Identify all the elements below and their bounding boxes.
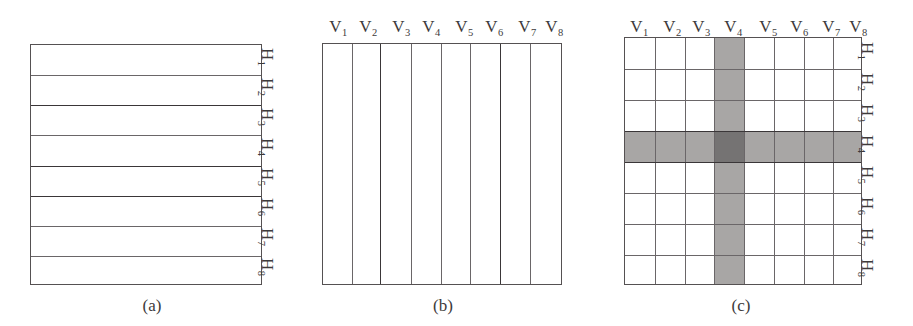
- panel-a-row-label-h6: H6: [259, 198, 276, 216]
- panel-c-col-label-v4: V4: [724, 18, 742, 35]
- panel-b-col-label-v4: V4: [422, 18, 440, 35]
- panel-a-row-label-h2: H2: [259, 78, 276, 96]
- panel-c-row-label-h1: H1: [859, 42, 876, 60]
- panel-b-col-divider-1: [352, 44, 353, 284]
- panel-a-row-divider-7: [31, 256, 261, 257]
- panel-b-col-label-v8: V8: [545, 18, 563, 35]
- panel-c-row-divider-3: [625, 131, 861, 132]
- panel-c-col-label-v8: V8: [849, 18, 867, 35]
- panel-c-row-label-h8: H8: [859, 259, 876, 277]
- panel-c-col-divider-6: [804, 38, 805, 284]
- panel-c-row-label-h3: H3: [859, 104, 876, 122]
- panel-c-row-label-h6: H6: [859, 197, 876, 215]
- panel-a-row-label-h5: H5: [259, 168, 276, 186]
- panel-b-caption: (b): [433, 297, 453, 314]
- panel-c-col-divider-5: [774, 38, 775, 284]
- panel-b-col-divider-3: [411, 44, 412, 284]
- panel-c-row-label-h2: H2: [859, 73, 876, 91]
- panel-b-col-label-v7: V7: [518, 18, 536, 35]
- panel-c-row-label-h5: H5: [859, 166, 876, 184]
- panel-a-row-divider-4: [31, 166, 261, 167]
- panel-b-col-divider-7: [530, 44, 531, 284]
- panel-b-col-label-v3: V3: [392, 18, 410, 35]
- panel-c-row-label-h7: H7: [859, 228, 876, 246]
- panel-b-col-divider-2: [380, 44, 381, 284]
- panel-a-row-divider-6: [31, 226, 261, 227]
- panel-c-col-divider-2: [685, 38, 686, 284]
- panel-c-row-divider-1: [625, 69, 861, 70]
- panel-c-row-divider-6: [625, 224, 861, 225]
- panel-c-col-label-v3: V3: [692, 18, 710, 35]
- panel-c-row-divider-5: [625, 193, 861, 194]
- panel-a-grid: [30, 44, 262, 285]
- panel-a-row-divider-2: [31, 105, 261, 106]
- panel-a-row-label-h8: H8: [259, 258, 276, 276]
- panel-b-col-divider-5: [470, 44, 471, 284]
- panel-b-grid: [322, 43, 562, 285]
- panel-c-grid: [624, 37, 862, 285]
- panel-c-col-label-v5: V5: [759, 18, 777, 35]
- panel-a-row-label-h4: H4: [259, 138, 276, 156]
- panel-c-col-label-v2: V2: [663, 18, 681, 35]
- panel-c-col-label-v7: V7: [822, 18, 840, 35]
- panel-a-row-label-h1: H1: [259, 48, 276, 66]
- panel-c-col-label-v1: V1: [630, 18, 648, 35]
- panel-a-caption: (a): [143, 297, 162, 314]
- panel-b-col-label-v2: V2: [359, 18, 377, 35]
- panel-c-row-divider-4: [625, 162, 861, 163]
- panel-a-row-divider-3: [31, 135, 261, 136]
- panel-b-col-label-v1: V1: [329, 18, 347, 35]
- panel-b-col-divider-6: [500, 44, 501, 284]
- panel-c-row-divider-7: [625, 255, 861, 256]
- panel-c-row-label-h4: H4: [859, 135, 876, 153]
- panel-c-col-label-v6: V6: [790, 18, 808, 35]
- panel-c-col-divider-3: [714, 38, 715, 284]
- panel-c-col-divider-4: [744, 38, 745, 284]
- panel-a-row-label-h7: H7: [259, 228, 276, 246]
- panel-c-col-divider-1: [655, 38, 656, 284]
- panel-c-row-divider-2: [625, 100, 861, 101]
- panel-a-row-divider-1: [31, 75, 261, 76]
- panel-b-col-label-v5: V5: [455, 18, 473, 35]
- panel-c-col-divider-7: [833, 38, 834, 284]
- panel-b-col-divider-4: [441, 44, 442, 284]
- panel-b-col-label-v6: V6: [485, 18, 503, 35]
- panel-c-caption: (c): [732, 297, 751, 314]
- panel-c-intersection-cell-v4-h4: [714, 131, 744, 162]
- panel-a-row-divider-5: [31, 196, 261, 197]
- figure-root: H1 H2 H3 H4 H5 H6 H7 H8 (a) V1 V2: [0, 0, 913, 326]
- panel-a-row-label-h3: H3: [259, 108, 276, 126]
